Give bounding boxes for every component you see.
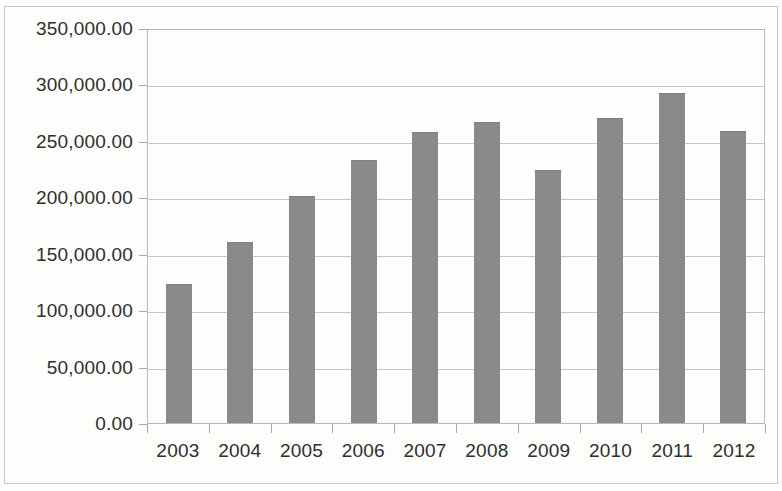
- bar-slot: [148, 30, 210, 423]
- x-axis-labels: 2003200420052006200720082009201020112012: [147, 440, 765, 462]
- bar: [289, 196, 315, 423]
- y-axis-tick-label: 250,000.00: [0, 131, 133, 153]
- bar: [227, 242, 253, 423]
- bar-slot: [518, 30, 580, 423]
- bar: [659, 93, 685, 423]
- x-axis-tick-mark: [518, 424, 519, 433]
- x-axis-tick-mark: [209, 424, 210, 433]
- x-axis-tick-mark: [456, 424, 457, 433]
- x-axis-tick-mark: [394, 424, 395, 433]
- x-axis-tick-label: 2010: [580, 440, 642, 462]
- bar-slot: [394, 30, 456, 423]
- bar-slot: [271, 30, 333, 423]
- bar-slot: [456, 30, 518, 423]
- bar: [474, 122, 500, 423]
- x-axis-tick-label: 2005: [271, 440, 333, 462]
- x-axis-tick-mark: [580, 424, 581, 433]
- bar-slot: [579, 30, 641, 423]
- x-axis-tick-label: 2004: [209, 440, 271, 462]
- bar-slot: [702, 30, 764, 423]
- x-axis-ticks: [147, 424, 765, 433]
- x-axis-tick-mark: [147, 424, 148, 433]
- bar: [166, 284, 192, 423]
- bar: [720, 131, 746, 423]
- x-axis-tick-label: 2007: [394, 440, 456, 462]
- y-axis-tick-label: 50,000.00: [0, 357, 133, 379]
- x-axis-tick-label: 2003: [147, 440, 209, 462]
- plot-area: [147, 29, 765, 424]
- y-axis-tick-label: 100,000.00: [0, 300, 133, 322]
- y-axis-tick-label: 150,000.00: [0, 244, 133, 266]
- y-axis-labels: 350,000.00 300,000.00 250,000.00 200,000…: [0, 0, 133, 491]
- x-axis-tick-mark: [641, 424, 642, 433]
- x-axis-tick-mark: [765, 424, 766, 433]
- x-axis-tick-mark: [332, 424, 333, 433]
- bar-slot: [210, 30, 272, 423]
- bar-series: [148, 30, 764, 423]
- bar: [597, 118, 623, 423]
- x-axis-tick-mark: [271, 424, 272, 433]
- x-axis-tick-label: 2006: [332, 440, 394, 462]
- bar-chart-figure: 350,000.00 300,000.00 250,000.00 200,000…: [0, 0, 782, 491]
- x-axis-tick-label: 2008: [456, 440, 518, 462]
- bar: [535, 170, 561, 423]
- y-axis-tick-label: 300,000.00: [0, 74, 133, 96]
- x-axis-tick-mark: [703, 424, 704, 433]
- y-axis-tick-label: 200,000.00: [0, 187, 133, 209]
- bar: [412, 132, 438, 423]
- bar: [351, 160, 377, 423]
- y-axis-tick-label: 350,000.00: [0, 18, 133, 40]
- x-axis-tick-label: 2009: [518, 440, 580, 462]
- bar-slot: [641, 30, 703, 423]
- x-axis-tick-label: 2011: [641, 440, 703, 462]
- x-axis-tick-label: 2012: [703, 440, 765, 462]
- bar-slot: [333, 30, 395, 423]
- y-axis-tick-label: 0.00: [0, 413, 133, 435]
